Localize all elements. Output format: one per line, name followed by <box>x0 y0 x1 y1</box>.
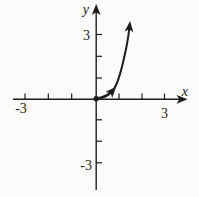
function-curve <box>96 28 129 99</box>
y-tick-label-pos3: 3 <box>83 28 90 43</box>
y-tick-label-neg3: -3 <box>80 158 92 173</box>
x-tick-label-neg3: -3 <box>15 101 27 116</box>
origin-point-dot <box>94 96 99 101</box>
curve-direction-arrow <box>102 92 112 98</box>
x-axis-label: x <box>181 84 189 99</box>
y-axis-label: y <box>81 2 90 17</box>
axes-plot: y x 3 -3 -3 3 <box>0 0 199 197</box>
math-figure-canvas: y x 3 -3 -3 3 <box>0 0 199 197</box>
x-tick-label-pos3: 3 <box>161 106 168 121</box>
